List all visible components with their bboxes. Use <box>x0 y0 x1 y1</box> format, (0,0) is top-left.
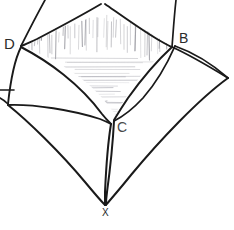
hatch-stroke-vertical <box>59 33 60 42</box>
vertex-label-c: C <box>117 120 127 134</box>
hatch-stroke-vertical <box>104 19 105 38</box>
hatch-stroke-vertical <box>116 20 117 37</box>
hatch-stroke-horizontal <box>85 102 129 103</box>
edge-left-cusp-spur <box>0 98 8 104</box>
edge-b-upward-spur <box>172 0 176 47</box>
hatch-stroke-horizontal <box>71 106 107 107</box>
hatch-stroke-vertical <box>82 21 83 46</box>
vertex-label-x: X <box>102 208 109 218</box>
hatch-stroke-vertical <box>113 18 114 38</box>
hatch-stroke-vertical <box>135 26 136 51</box>
hatch-stroke-vertical <box>34 37 35 46</box>
hatch-stroke-vertical <box>29 41 30 69</box>
edge-rightfold-to-c <box>114 46 175 121</box>
vertex-label-d: D <box>4 36 15 51</box>
vertex-label-b: B <box>179 31 188 45</box>
edge-b-to-right-cusp <box>172 47 228 78</box>
hatch-stroke-horizontal <box>83 94 115 95</box>
hand-drawn-figure <box>0 0 234 230</box>
edge-b-to-c-inner <box>114 47 172 120</box>
hatch-accent-mark <box>95 101 107 102</box>
hatch-stroke-vertical <box>85 20 86 45</box>
hatch-stroke-vertical <box>157 33 158 54</box>
diagram-canvas: D B C X <box>0 0 234 230</box>
hatch-stroke-vertical <box>79 25 80 49</box>
hatch-stroke-vertical <box>65 26 66 49</box>
edge-left-cusp-to-x <box>8 105 105 205</box>
hatch-stroke-vertical <box>56 31 57 59</box>
edge-apex-to-b <box>105 4 172 47</box>
vertical-hatch-strokes <box>29 15 167 69</box>
hatch-stroke-vertical <box>107 21 108 49</box>
hatch-stroke-vertical <box>106 15 107 47</box>
edge-apex-to-d <box>21 4 101 46</box>
interior-hatching <box>29 15 167 119</box>
edge-left-cusp-to-c-concave <box>8 105 111 124</box>
hatch-stroke-vertical <box>151 30 152 51</box>
hatch-stroke-horizontal <box>68 88 113 89</box>
edge-d-to-left-cusp <box>8 47 21 104</box>
hatch-stroke-vertical <box>49 34 50 53</box>
hatch-stroke-horizontal <box>51 58 137 59</box>
